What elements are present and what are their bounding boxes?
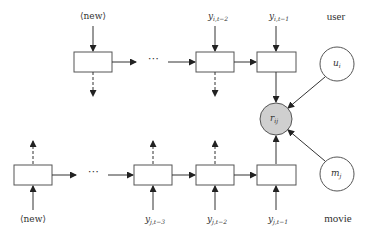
movie-input-label-t1: yj,t−1 bbox=[267, 214, 288, 226]
mj-to-rating-arrow bbox=[288, 130, 325, 161]
ui-to-rating-arrow bbox=[288, 77, 325, 108]
user-input-label-t2: yi,t−2 bbox=[207, 11, 228, 22]
movie-input-label-t2: yj,t−2 bbox=[206, 214, 227, 226]
movie-row-label: movie bbox=[324, 212, 352, 224]
movie-chain: ⋯ ⟨new⟩ yj,t−3 yj,t−2 yj,t−1 movie mj bbox=[14, 141, 354, 226]
movie-rnn-cell-first bbox=[14, 165, 52, 185]
user-chain: ⟨new⟩ yi,t−2 yi,t−1 user ⋯ ui bbox=[74, 10, 354, 96]
user-rnn-cell-t1 bbox=[257, 52, 296, 72]
movie-ellipsis: ⋯ bbox=[88, 165, 99, 178]
movie-input-label-t3: yj,t−3 bbox=[144, 214, 165, 226]
user-input-label-t1: yi,t−1 bbox=[268, 11, 289, 22]
rating-output: rij bbox=[260, 72, 325, 164]
movie-rnn-cell-t1 bbox=[257, 165, 296, 185]
user-rnn-cell-first bbox=[74, 52, 112, 72]
movie-rnn-cell-t2 bbox=[196, 165, 234, 185]
user-input-new-label: ⟨new⟩ bbox=[80, 11, 106, 21]
movie-input-new-label: ⟨new⟩ bbox=[20, 214, 46, 224]
user-row-label: user bbox=[327, 10, 346, 22]
diagram-canvas: ⟨new⟩ yi,t−2 yi,t−1 user ⋯ ui rij bbox=[0, 0, 366, 241]
user-ellipsis: ⋯ bbox=[148, 52, 159, 65]
movie-rnn-cell-t3 bbox=[134, 165, 172, 185]
user-rnn-cell-t2 bbox=[196, 52, 234, 72]
